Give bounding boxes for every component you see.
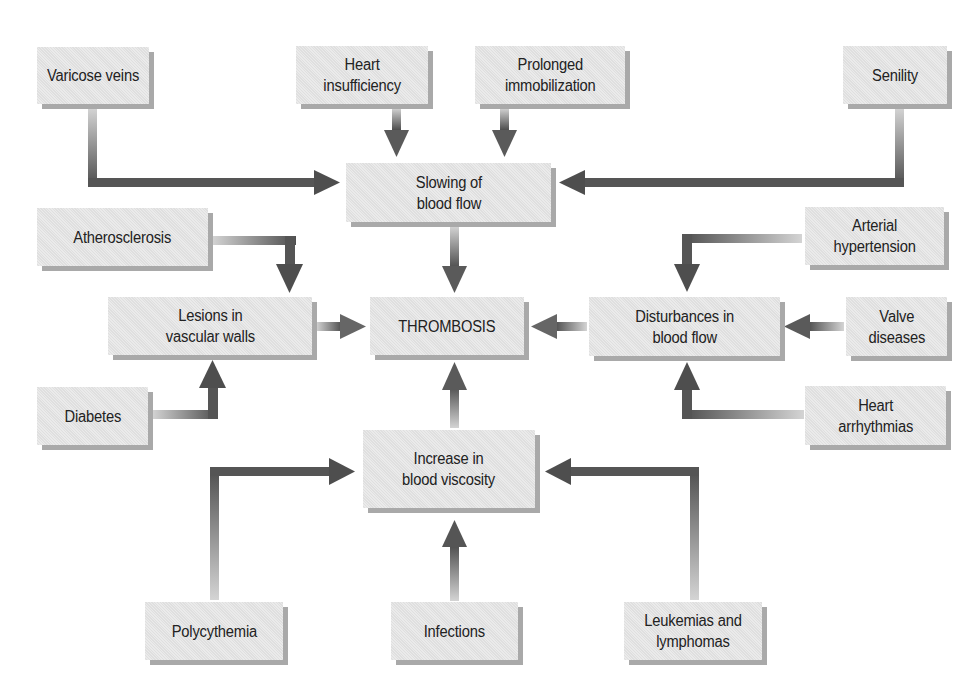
- arrow-arrhythmias-to-disturbances: [674, 362, 804, 419]
- node-slowing-blood-flow[interactable]: Slowing of blood flow: [346, 163, 551, 222]
- node-prolonged-immobilization[interactable]: Prolonged immobilization: [475, 46, 625, 104]
- node-label: Leukemias and lymphomas: [644, 610, 741, 652]
- arrow-infections-to-viscosity: [442, 520, 467, 601]
- node-heart-arrhythmias[interactable]: Heart arrhythmias: [805, 386, 946, 445]
- node-label: Atherosclerosis: [74, 227, 172, 248]
- node-increase-blood-viscosity[interactable]: Increase in blood viscosity: [363, 430, 535, 508]
- node-infections[interactable]: Infections: [391, 602, 518, 660]
- thrombosis-diagram: Varicose veins Heart insufficiency Prolo…: [0, 0, 976, 697]
- node-arterial-hypertension[interactable]: Arterial hypertension: [805, 207, 944, 265]
- arrow-lesions-to-thrombosis: [316, 314, 366, 339]
- arrow-immobilization-to-slowing: [492, 108, 517, 157]
- arrow-heart-insufficiency-to-slowing: [384, 108, 409, 157]
- node-disturbances-blood-flow[interactable]: Disturbances in blood flow: [589, 297, 780, 356]
- node-label: Diabetes: [64, 406, 121, 427]
- node-label: Senility: [872, 65, 918, 86]
- node-label: Lesions in vascular walls: [165, 305, 254, 347]
- node-lesions-vascular-walls[interactable]: Lesions in vascular walls: [108, 297, 312, 355]
- node-label: Slowing of blood flow: [415, 172, 481, 214]
- node-label: Increase in blood viscosity: [403, 448, 496, 490]
- node-heart-insufficiency[interactable]: Heart insufficiency: [296, 46, 428, 104]
- node-varicose-veins[interactable]: Varicose veins: [37, 47, 149, 104]
- arrow-disturbances-to-thrombosis: [531, 314, 587, 339]
- node-thrombosis[interactable]: THROMBOSIS: [370, 297, 524, 355]
- node-label: Arterial hypertension: [833, 215, 915, 257]
- arrow-leukemias-to-viscosity: [545, 458, 699, 600]
- node-label: THROMBOSIS: [398, 316, 495, 337]
- node-polycythemia[interactable]: Polycythemia: [145, 602, 283, 660]
- arrow-varicose-to-slowing: [88, 108, 340, 195]
- arrow-slowing-to-thrombosis: [442, 226, 467, 293]
- arrow-polycythemia-to-viscosity: [210, 458, 355, 600]
- node-label: Polycythemia: [171, 621, 256, 642]
- node-label: Valve diseases: [868, 306, 925, 348]
- arrow-atherosclerosis-to-lesions: [212, 236, 303, 293]
- node-valve-diseases[interactable]: Valve diseases: [846, 297, 947, 356]
- arrow-valve-to-disturbances: [784, 314, 844, 339]
- node-atherosclerosis[interactable]: Atherosclerosis: [37, 208, 208, 266]
- arrow-diabetes-to-lesions: [152, 360, 226, 419]
- node-label: Heart arrhythmias: [838, 395, 913, 437]
- node-senility[interactable]: Senility: [843, 46, 947, 104]
- node-label: Infections: [424, 621, 485, 642]
- arrow-hypertension-to-disturbances: [674, 234, 802, 292]
- node-label: Heart insufficiency: [323, 54, 401, 96]
- node-label: Varicose veins: [47, 65, 139, 86]
- arrow-senility-to-slowing: [559, 108, 904, 195]
- node-label: Disturbances in blood flow: [635, 306, 734, 348]
- node-label: Prolonged immobilization: [505, 54, 596, 96]
- node-diabetes[interactable]: Diabetes: [37, 387, 148, 445]
- arrow-viscosity-to-thrombosis: [442, 362, 467, 428]
- node-leukemias-lymphomas[interactable]: Leukemias and lymphomas: [624, 602, 762, 660]
